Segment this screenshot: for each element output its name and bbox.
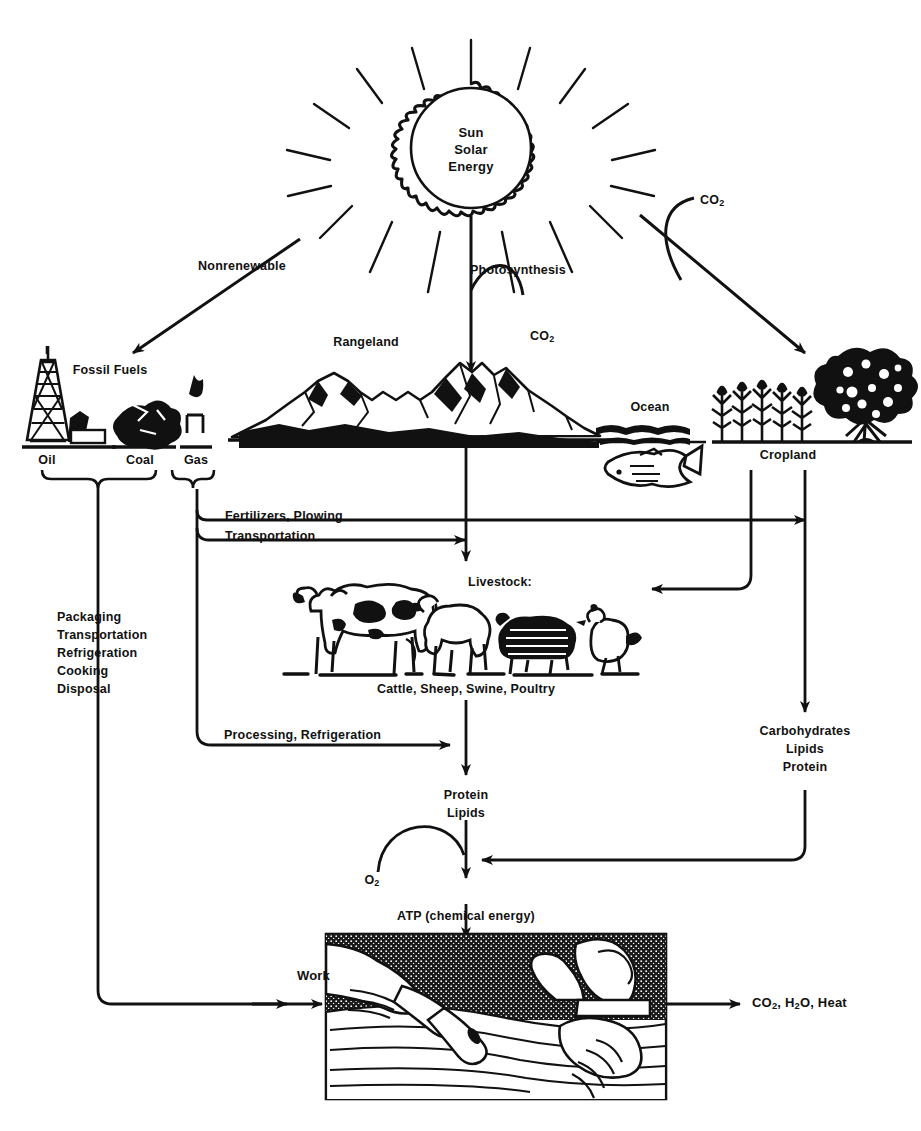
livestock-caption: Cattle, Sheep, Swine, Poultry xyxy=(377,681,555,697)
diagram-page: Sun Solar Energy Nonrenewable Photosynth… xyxy=(0,0,921,1131)
protein-label: Protein xyxy=(444,787,488,803)
carbo-lipids-label: Lipids xyxy=(786,741,824,757)
livestock-label: Livestock: xyxy=(468,574,532,590)
cropland-label: Cropland xyxy=(760,447,816,463)
work-label: Work xyxy=(297,968,330,985)
flow-nonrenewable: Nonrenewable xyxy=(198,258,286,274)
outputs-label: CO2, H2O, Heat xyxy=(752,995,847,1013)
household-use-line-4: Cooking xyxy=(57,663,108,679)
flow-co2-top: CO2 xyxy=(700,192,724,209)
flow-processing-refrigeration: Processing, Refrigeration xyxy=(224,727,381,743)
hands-working-icon xyxy=(326,934,666,1100)
carbohydrates-label: Carbohydrates xyxy=(760,723,851,739)
mountains-icon xyxy=(228,363,620,448)
coal-icon xyxy=(112,400,182,449)
carbo-protein-label: Protein xyxy=(783,759,827,775)
lipids-label: Lipids xyxy=(447,805,485,821)
sun-label-3: Energy xyxy=(448,159,493,176)
ocean-label: Ocean xyxy=(630,399,669,415)
fossil-fuel-item-coal: Coal xyxy=(126,452,154,468)
tree-icon xyxy=(813,348,918,442)
flow-fertilizers-plowing: Fertilizers, Plowing xyxy=(225,508,343,524)
flow-transportation: Transportation xyxy=(225,528,315,544)
fish-icon xyxy=(605,446,702,487)
flow-photosynthesis: Photosynthesis xyxy=(470,262,566,278)
household-use-line-5: Disposal xyxy=(57,681,111,697)
cropland-icon xyxy=(712,348,918,442)
household-use-line-1: Packaging xyxy=(57,609,121,625)
fossil-fuel-item-gas: Gas xyxy=(184,452,208,468)
household-use-line-3: Refrigeration xyxy=(57,645,137,661)
sun-label-1: Sun xyxy=(458,125,483,142)
flow-co2-rangeland: CO2 xyxy=(530,328,554,345)
fossil-fuels-label: Fossil Fuels xyxy=(73,362,148,378)
sun-label-2: Solar xyxy=(454,142,488,159)
household-use-line-2: Transportation xyxy=(57,627,147,643)
fossil-fuel-item-oil: Oil xyxy=(38,452,55,468)
rangeland-label: Rangeland xyxy=(333,334,399,350)
atp-label: ATP (chemical energy) xyxy=(397,908,535,924)
livestock-icon xyxy=(284,584,642,675)
oxygen-label: O2 xyxy=(364,872,379,889)
gas-flare-icon xyxy=(180,375,212,447)
ocean-icon xyxy=(596,425,706,487)
